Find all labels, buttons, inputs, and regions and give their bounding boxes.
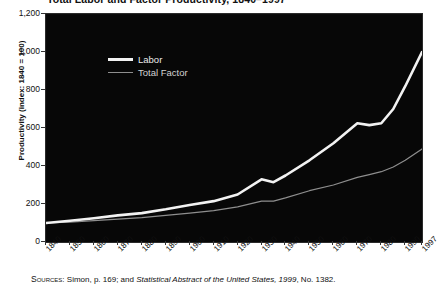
series-canvas — [46, 14, 422, 242]
source-mid: : Simon, p. 169; and — [62, 275, 136, 284]
source-prefix: Sources — [31, 274, 62, 284]
series-line-labor — [46, 52, 422, 223]
source-title: Statistical Abstract of the United State… — [136, 275, 296, 284]
y-axis-tick-mark — [41, 13, 45, 14]
y-axis-tick-mark — [41, 51, 45, 52]
legend: Labor Total Factor — [108, 53, 188, 79]
legend-swatch-labor-icon — [108, 58, 133, 61]
legend-item-labor: Labor — [108, 53, 188, 66]
source-note: Sources: Simon, p. 169; and Statistical … — [31, 274, 336, 284]
page-title: Total Labor and Factor Productivity, 184… — [47, 0, 286, 5]
y-axis-title: Productivity (index: 1840 = 100) — [17, 26, 26, 176]
y-axis-tick-mark — [41, 203, 45, 204]
y-axis-tick-label: 0 — [0, 236, 40, 246]
y-axis-tick-mark — [41, 127, 45, 128]
plot-area: Labor Total Factor — [45, 13, 423, 243]
legend-swatch-total-factor-icon — [108, 72, 133, 73]
y-axis-tick-label: 200 — [0, 198, 40, 208]
source-suffix: , No. 1382. — [296, 275, 335, 284]
legend-label-total-factor: Total Factor — [138, 67, 188, 78]
legend-label-labor: Labor — [138, 54, 162, 65]
legend-item-total-factor: Total Factor — [108, 66, 188, 79]
series-line-total-factor — [46, 149, 422, 223]
y-axis-tick-mark — [41, 89, 45, 90]
y-axis-tick-label: 1,200 — [0, 8, 40, 18]
y-axis-tick-mark — [41, 165, 45, 166]
